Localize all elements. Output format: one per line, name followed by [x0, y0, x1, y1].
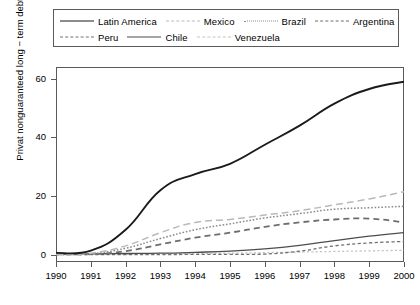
- plot-lines: [56, 67, 404, 262]
- legend-label-mexico: Mexico: [204, 16, 235, 27]
- x-tick-mark: [160, 262, 161, 267]
- legend-label-argentina: Argentina: [353, 16, 395, 27]
- legend-item-argentina: Argentina: [315, 16, 395, 27]
- x-tick-mark: [369, 262, 370, 267]
- x-tick-label: 1991: [74, 271, 108, 281]
- legend-item-peru: Peru: [60, 32, 118, 43]
- x-tick-mark: [56, 262, 57, 267]
- x-tick-label: 1998: [317, 271, 351, 281]
- y-tick-label: 40: [22, 132, 46, 142]
- x-tick-label: 1999: [352, 271, 386, 281]
- legend-label-brazil: Brazil: [282, 16, 306, 27]
- legend-line-swatch-chile: [127, 32, 161, 42]
- x-tick-mark: [126, 262, 127, 267]
- legend-label-latin-america: Latin America: [98, 16, 157, 27]
- x-tick-label: 1992: [109, 271, 143, 281]
- legend-label-chile: Chile: [165, 32, 187, 43]
- y-tick-label: 60: [22, 74, 46, 84]
- legend-item-brazil: Brazil: [244, 16, 306, 27]
- y-tick-label: 20: [22, 191, 46, 201]
- x-tick-mark: [334, 262, 335, 267]
- legend-row-2: Peru Chile Venezuela: [60, 29, 392, 45]
- x-tick-label: 1995: [213, 271, 247, 281]
- legend-item-latin-america: Latin America: [60, 16, 157, 27]
- legend-line-swatch-argentina: [315, 16, 349, 26]
- legend-label-venezuela: Venezuela: [235, 32, 280, 43]
- legend-item-chile: Chile: [127, 32, 187, 43]
- series-line-mexico: [56, 192, 404, 255]
- x-tick-mark: [300, 262, 301, 267]
- x-tick-mark: [265, 262, 266, 267]
- legend-line-swatch-peru: [60, 32, 94, 42]
- x-tick-label: 1994: [178, 271, 212, 281]
- x-tick-mark: [91, 262, 92, 267]
- chart-figure: Latin America Mexico Brazil Argentina Pe…: [0, 0, 420, 305]
- x-tick-label: 2000: [387, 271, 420, 281]
- legend-item-mexico: Mexico: [166, 16, 235, 27]
- legend-line-swatch-venezuela: [197, 32, 231, 42]
- y-axis-title: Privat nonguaranteed long − term debt ( …: [14, 0, 25, 171]
- x-tick-mark: [404, 262, 405, 267]
- legend-line-swatch-mexico: [166, 16, 200, 26]
- legend-line-swatch-brazil: [244, 16, 278, 26]
- x-tick-label: 1990: [39, 271, 73, 281]
- x-tick-label: 1996: [248, 271, 282, 281]
- x-tick-label: 1993: [143, 271, 177, 281]
- series-line-latin-america: [56, 82, 404, 254]
- legend-row-1: Latin America Mexico Brazil Argentina: [60, 13, 392, 29]
- series-line-brazil: [56, 206, 404, 254]
- chart-legend: Latin America Mexico Brazil Argentina Pe…: [53, 9, 399, 47]
- legend-item-venezuela: Venezuela: [197, 32, 280, 43]
- x-tick-mark: [195, 262, 196, 267]
- legend-label-peru: Peru: [98, 32, 118, 43]
- x-tick-mark: [230, 262, 231, 267]
- x-tick-label: 1997: [283, 271, 317, 281]
- legend-line-swatch-latin-america: [60, 16, 94, 26]
- y-tick-label: 0: [22, 250, 46, 260]
